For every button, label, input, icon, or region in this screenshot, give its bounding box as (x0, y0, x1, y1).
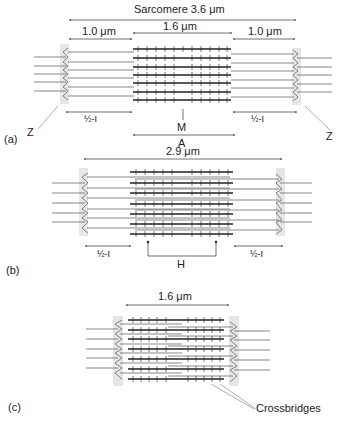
panel-a-label: (a) (4, 133, 17, 145)
crossbridges-label: Crossbridges (256, 402, 321, 414)
half-i-left-label: ½-I (84, 114, 97, 124)
a-band-length: 1.6 μm (163, 20, 197, 32)
right-i-length: 1.0 μm (248, 25, 282, 37)
left-i-length: 1.0 μm (82, 25, 116, 37)
panel-b-length: 2.9 μm (166, 145, 200, 157)
m-line-label: M (177, 121, 186, 133)
half-i-left-label-b: ½-I (97, 249, 110, 259)
panel-c-length: 1.6 μm (158, 290, 192, 302)
half-i-right-label-b: ½-I (250, 249, 263, 259)
z-left-label: Z (27, 126, 34, 138)
z-right-label: Z (326, 130, 333, 142)
h-zone-label: H (177, 258, 185, 270)
sarcomere-label: Sarcomere 3.6 μm (134, 3, 225, 15)
panel-c-label: (c) (8, 401, 21, 413)
panel-b-label: (b) (6, 264, 19, 276)
half-i-right-label: ½-I (251, 114, 264, 124)
